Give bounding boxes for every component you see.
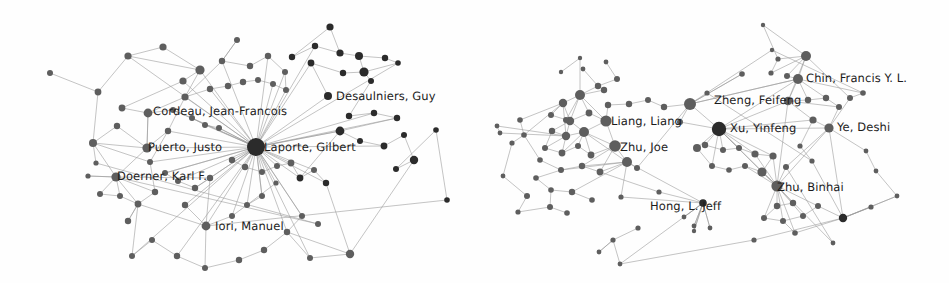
graph-node[interactable] bbox=[579, 127, 589, 137]
graph-node[interactable] bbox=[147, 159, 153, 165]
graph-node[interactable] bbox=[119, 105, 126, 112]
graph-node[interactable] bbox=[195, 65, 204, 74]
graph-node[interactable] bbox=[315, 221, 321, 227]
graph-node[interactable] bbox=[770, 48, 774, 52]
graph-node[interactable] bbox=[864, 149, 869, 154]
graph-node[interactable] bbox=[780, 218, 786, 224]
graph-node[interactable] bbox=[135, 201, 142, 208]
graph-node[interactable] bbox=[236, 257, 242, 263]
graph-node[interactable] bbox=[433, 127, 439, 133]
graph-node[interactable] bbox=[537, 157, 543, 163]
graph-node[interactable] bbox=[604, 60, 609, 65]
graph-node[interactable] bbox=[559, 150, 566, 157]
graph-node[interactable] bbox=[823, 95, 829, 101]
graph-node[interactable] bbox=[645, 97, 651, 103]
graph-node[interactable] bbox=[282, 69, 288, 75]
graph-node[interactable] bbox=[382, 55, 388, 61]
graph-node[interactable] bbox=[775, 56, 780, 61]
graph-node[interactable] bbox=[895, 194, 900, 199]
graph-node[interactable] bbox=[202, 222, 211, 231]
graph-node[interactable] bbox=[202, 265, 208, 271]
graph-node[interactable] bbox=[692, 229, 696, 233]
graph-node[interactable] bbox=[692, 224, 697, 229]
graph-node[interactable] bbox=[809, 116, 816, 123]
graph-node[interactable] bbox=[790, 200, 796, 206]
graph-node[interactable] bbox=[563, 117, 569, 123]
graph-node[interactable] bbox=[93, 160, 98, 165]
graph-node[interactable] bbox=[284, 229, 290, 235]
graph-node[interactable] bbox=[614, 76, 620, 82]
graph-node[interactable] bbox=[605, 102, 611, 108]
graph-node[interactable] bbox=[521, 132, 527, 138]
graph-node[interactable] bbox=[192, 185, 198, 191]
graph-node[interactable] bbox=[712, 122, 726, 136]
graph-node[interactable] bbox=[255, 77, 261, 83]
graph-node[interactable] bbox=[757, 167, 766, 176]
graph-node[interactable] bbox=[381, 143, 388, 150]
graph-node[interactable] bbox=[809, 158, 814, 163]
graph-node[interactable] bbox=[359, 67, 368, 76]
graph-node[interactable] bbox=[323, 180, 329, 186]
graph-node[interactable] bbox=[216, 125, 222, 131]
graph-node[interactable] bbox=[868, 204, 873, 209]
graph-node[interactable] bbox=[247, 63, 253, 69]
graph-node[interactable] bbox=[595, 83, 601, 89]
graph-node[interactable] bbox=[394, 115, 400, 121]
graph-node[interactable] bbox=[95, 89, 102, 96]
graph-node[interactable] bbox=[575, 90, 585, 100]
graph-node[interactable] bbox=[793, 74, 803, 84]
graph-node[interactable] bbox=[129, 253, 135, 259]
graph-node[interactable] bbox=[393, 166, 399, 172]
graph-node[interactable] bbox=[524, 193, 530, 199]
graph-node[interactable] bbox=[626, 101, 632, 107]
graph-node[interactable] bbox=[792, 230, 798, 236]
graph-node[interactable] bbox=[368, 78, 374, 84]
graph-node[interactable] bbox=[97, 191, 103, 197]
graph-node[interactable] bbox=[117, 193, 123, 199]
graph-node[interactable] bbox=[575, 143, 581, 149]
graph-node[interactable] bbox=[261, 247, 267, 253]
graph-node[interactable] bbox=[324, 92, 332, 100]
graph-node[interactable] bbox=[326, 23, 333, 30]
graph-node[interactable] bbox=[761, 215, 767, 221]
graph-node[interactable] bbox=[288, 160, 295, 167]
graph-node[interactable] bbox=[289, 54, 295, 60]
graph-node[interactable] bbox=[259, 169, 265, 175]
graph-node[interactable] bbox=[860, 90, 866, 96]
graph-node[interactable] bbox=[736, 145, 742, 151]
graph-node[interactable] bbox=[601, 87, 607, 93]
graph-node[interactable] bbox=[273, 180, 278, 185]
graph-node[interactable] bbox=[498, 131, 503, 136]
graph-node[interactable] bbox=[622, 157, 632, 167]
graph-node[interactable] bbox=[586, 110, 593, 117]
graph-node[interactable] bbox=[578, 56, 582, 60]
graph-node[interactable] bbox=[181, 93, 188, 100]
graph-node[interactable] bbox=[588, 152, 595, 159]
graph-node[interactable] bbox=[444, 197, 450, 203]
graph-node[interactable] bbox=[283, 87, 289, 93]
graph-node[interactable] bbox=[182, 202, 188, 208]
graph-node[interactable] bbox=[684, 98, 696, 110]
graph-node[interactable] bbox=[548, 112, 554, 118]
graph-node[interactable] bbox=[346, 250, 354, 258]
graph-node[interactable] bbox=[509, 140, 514, 145]
graph-node[interactable] bbox=[202, 122, 208, 128]
graph-node[interactable] bbox=[600, 115, 611, 126]
graph-node[interactable] bbox=[618, 194, 623, 199]
graph-node[interactable] bbox=[549, 128, 555, 134]
graph-node[interactable] bbox=[569, 189, 575, 195]
graph-node[interactable] bbox=[797, 143, 802, 148]
graph-node[interactable] bbox=[693, 144, 701, 152]
graph-node[interactable] bbox=[839, 214, 847, 222]
graph-node[interactable] bbox=[742, 163, 748, 169]
graph-node[interactable] bbox=[515, 209, 520, 214]
graph-node[interactable] bbox=[297, 175, 304, 182]
graph-node[interactable] bbox=[179, 77, 186, 84]
graph-node[interactable] bbox=[207, 175, 213, 181]
graph-node[interactable] bbox=[114, 123, 120, 129]
graph-node[interactable] bbox=[244, 202, 250, 208]
graph-node[interactable] bbox=[401, 132, 407, 138]
graph-node[interactable] bbox=[533, 175, 539, 181]
graph-node[interactable] bbox=[174, 253, 180, 259]
graph-node[interactable] bbox=[219, 58, 225, 64]
